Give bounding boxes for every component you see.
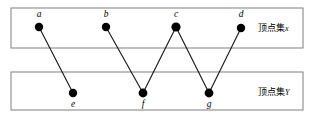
vertex-label-e: e — [71, 99, 75, 109]
vertex-dot-b — [102, 23, 110, 31]
vertex-label-b: b — [104, 9, 109, 19]
vertex-set-label-y: 顶点集Y — [258, 86, 291, 97]
vertex-label-d: d — [239, 9, 244, 19]
vertex-dot-d — [237, 24, 245, 32]
vertex-dot-g — [205, 89, 214, 98]
vertex-set-label-cjk: 顶点集 — [258, 22, 285, 33]
diagram-canvas: abcdefg 顶点集x顶点集Y — [0, 0, 312, 127]
vertex-dot-e — [69, 89, 77, 97]
vertex-dot-a — [35, 23, 43, 31]
vertex-set-label-x: 顶点集x — [258, 22, 289, 33]
vertex-dot-f — [139, 89, 148, 98]
vertex-dot-c — [171, 22, 180, 31]
vertex-set-label-var: x — [284, 24, 289, 33]
vertex-label-a: a — [37, 9, 42, 19]
bipartite-graph-diagram: abcdefg 顶点集x顶点集Y — [0, 0, 312, 127]
vertex-label-g: g — [207, 99, 212, 109]
vertex-set-label-cjk: 顶点集 — [258, 86, 285, 97]
